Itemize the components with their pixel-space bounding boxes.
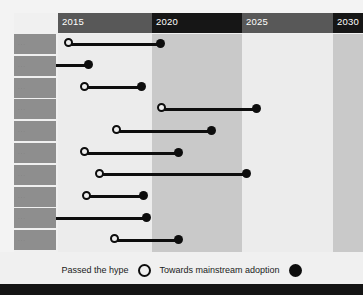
footer-caption-bar: [0, 284, 363, 295]
passed-the-hype-marker[interactable]: [64, 38, 73, 47]
row-label-cell: ...: [14, 187, 56, 207]
year-tick-label-2015: 2015: [62, 16, 84, 27]
row-label-cell: ...: [14, 208, 56, 228]
timeline-row[interactable]: ...: [0, 121, 363, 141]
range-connector-bar: [99, 173, 246, 176]
passed-the-hype-marker[interactable]: [110, 234, 119, 243]
row-label-cell: ...: [14, 34, 56, 54]
row-label-cell: ...: [14, 165, 56, 185]
chart-legend: Passed the hype Towards mainstream adopt…: [0, 256, 363, 284]
timeline-plot-area: 2015202020252030 .......................…: [0, 0, 363, 258]
filled-circle-icon: [289, 264, 302, 277]
range-connector-bar: [84, 152, 178, 155]
range-connector-bar: [68, 43, 160, 46]
year-tick-label-2030: 2030: [337, 16, 359, 27]
row-label-cell: ...: [14, 143, 56, 163]
mainstream-adoption-marker[interactable]: [242, 169, 251, 178]
row-label-text: ...: [18, 236, 26, 242]
timeline-row[interactable]: ...: [0, 99, 363, 119]
row-label-text: ...: [18, 84, 26, 90]
mainstream-adoption-marker[interactable]: [174, 148, 183, 157]
row-label-text: ...: [18, 193, 26, 199]
passed-the-hype-marker[interactable]: [80, 82, 89, 91]
row-label-cell: ...: [14, 56, 56, 76]
legend-label-towards-mainstream-adoption: Towards mainstream adoption: [160, 265, 280, 275]
timeline-row[interactable]: ...: [0, 143, 363, 163]
mainstream-adoption-marker[interactable]: [174, 235, 183, 244]
row-label-text: ...: [18, 171, 26, 177]
row-label-text: ...: [18, 127, 26, 133]
range-connector-bar: [56, 217, 146, 220]
row-label-cell: ...: [14, 230, 56, 250]
row-label-text: ...: [18, 62, 26, 68]
mainstream-adoption-marker[interactable]: [137, 82, 146, 91]
passed-the-hype-marker[interactable]: [82, 191, 91, 200]
mainstream-adoption-marker[interactable]: [139, 191, 148, 200]
passed-the-hype-marker[interactable]: [95, 169, 104, 178]
timeline-row[interactable]: ...: [0, 78, 363, 98]
mainstream-adoption-marker[interactable]: [142, 213, 151, 222]
range-connector-bar: [86, 195, 143, 198]
timeline-row[interactable]: ...: [0, 208, 363, 228]
passed-the-hype-marker[interactable]: [80, 147, 89, 156]
chart-canvas: 2015202020252030 .......................…: [0, 0, 363, 295]
timeline-row[interactable]: ...: [0, 230, 363, 250]
range-connector-bar: [116, 130, 211, 133]
mainstream-adoption-marker[interactable]: [207, 126, 216, 135]
range-connector-bar: [161, 108, 256, 111]
row-label-cell: ...: [14, 121, 56, 141]
mainstream-adoption-marker[interactable]: [156, 39, 165, 48]
row-label-cell: ...: [14, 78, 56, 98]
timeline-row[interactable]: ...: [0, 56, 363, 76]
passed-the-hype-marker[interactable]: [157, 103, 166, 112]
timeline-row[interactable]: ...: [0, 165, 363, 185]
mainstream-adoption-marker[interactable]: [84, 60, 93, 69]
timeline-row[interactable]: ...: [0, 187, 363, 207]
row-label-cell: ...: [14, 99, 56, 119]
row-label-text: ...: [18, 149, 26, 155]
range-connector-bar: [114, 239, 178, 242]
legend-label-passed-the-hype: Passed the hype: [61, 265, 128, 275]
row-label-text: ...: [18, 105, 26, 111]
range-connector-bar: [84, 86, 141, 89]
year-tick-label-2020: 2020: [156, 16, 178, 27]
year-tick-label-2025: 2025: [246, 16, 268, 27]
timeline-row[interactable]: ...: [0, 34, 363, 54]
passed-the-hype-marker[interactable]: [112, 125, 121, 134]
row-label-text: ...: [18, 214, 26, 220]
row-label-text: ...: [18, 40, 26, 46]
open-circle-icon: [138, 264, 151, 277]
mainstream-adoption-marker[interactable]: [252, 104, 261, 113]
